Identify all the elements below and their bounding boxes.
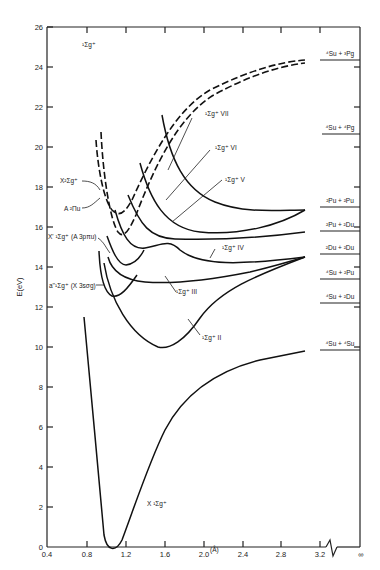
curve-a2pu-ion (101, 63, 305, 235)
curve-IV (115, 210, 305, 263)
axis-break-icon (326, 540, 337, 556)
ytick: 16 (35, 223, 43, 232)
leader-lines (82, 118, 222, 335)
y-axis-label: E(eV) (15, 277, 24, 297)
ytick: 2 (39, 503, 43, 512)
curve-x2sg-ion (96, 60, 305, 214)
ytick: 12 (35, 303, 43, 312)
ytick: 4 (39, 463, 43, 472)
label-V: ¹Σg⁺ V (225, 176, 246, 184)
symmetry-label: ¹Σg⁺ (82, 41, 96, 49)
xtick: 0.8 (82, 550, 92, 559)
curve-x-prime (107, 236, 144, 265)
xtick: 1.2 (121, 550, 131, 559)
xtick: 0.4 (42, 550, 52, 559)
ytick: 26 (35, 23, 43, 32)
label-VII: ¹Σg⁺ VII (205, 110, 229, 118)
xtick: 2.4 (238, 550, 248, 559)
label-x-prime: X' ¹Σg⁺ (A 3pπu) (48, 233, 96, 241)
label-a2pu: A ²Πu (64, 205, 81, 212)
chart-svg: 26 24 22 20 18 16 14 12 10 8 6 4 2 0 E(e… (0, 0, 380, 570)
ytick: 14 (35, 263, 43, 272)
xtick: 1.6 (160, 550, 170, 559)
ytick: 24 (35, 63, 43, 72)
asym-label: ²Pu + ²Du (326, 221, 354, 228)
asym-label: ⁴Su + ²Du (326, 293, 355, 300)
xtick: 3.2 (315, 550, 325, 559)
curve-a-double-prime (99, 251, 137, 296)
asym-label: ⁴Su + ³Pg (326, 50, 355, 58)
asym-label: ²Pu + ²Pu (326, 197, 354, 204)
curve-x-ground (84, 317, 305, 548)
potential-energy-chart: 26 24 22 20 18 16 14 12 10 8 6 4 2 0 E(e… (0, 0, 380, 570)
xtick: 2.0 (199, 550, 209, 559)
ytick: 18 (35, 183, 43, 192)
label-II: ¹Σg⁺ II (202, 334, 221, 342)
ytick: 20 (35, 143, 43, 152)
asym-label: ⁴Su + ⁴Su (326, 340, 355, 347)
ytick: 8 (39, 383, 43, 392)
y-ticks (47, 27, 53, 507)
label-III: ¹Σg⁺ III (176, 288, 197, 296)
xtick: 2.8 (276, 550, 286, 559)
x-tick-labels: 0.4 0.8 1.2 1.6 2.0 2.4 2.8 3.2 ∞ (42, 550, 364, 559)
x-unit-label: (Å) (210, 545, 219, 554)
asym-label: ²Du + ²Du (326, 244, 355, 251)
ytick: 6 (39, 423, 43, 432)
label-x-ground: X ¹Σg⁺ (147, 500, 167, 508)
curve-VI (140, 163, 305, 233)
ytick: 10 (35, 343, 43, 352)
y-tick-labels: 26 24 22 20 18 16 14 12 10 8 6 4 2 0 (35, 23, 43, 552)
ytick: 22 (35, 103, 43, 112)
label-x2sg: X²Σg⁺ (60, 177, 78, 185)
label-VI: ¹Σg⁺ VI (215, 144, 237, 152)
label-a-double-prime: a''¹Σg⁺ (X 3sσg) (49, 282, 96, 290)
curve-VII (162, 115, 305, 211)
label-IV: ¹Σg⁺ IV (222, 244, 244, 252)
asym-label: ⁴Su + ⁴Pg (326, 124, 355, 132)
xtick: ∞ (358, 550, 363, 559)
asym-label: ⁴Su + ²Pu (326, 269, 355, 276)
